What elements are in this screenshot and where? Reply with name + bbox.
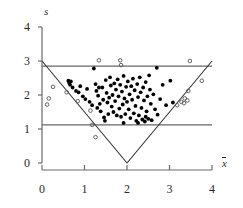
data-point-inlier <box>98 102 102 106</box>
data-point-inlier <box>158 97 162 101</box>
y-tick-label-2: 2 <box>14 89 30 101</box>
plot-canvas <box>0 0 243 208</box>
data-point-inlier <box>153 107 157 111</box>
y-axis-title: s <box>44 6 48 17</box>
data-point-inlier <box>106 112 110 116</box>
data-point-outlier <box>47 97 51 101</box>
data-point-inlier <box>77 90 81 94</box>
data-point-inlier <box>97 86 101 90</box>
reference-lines-layer <box>42 66 212 125</box>
data-point-inlier <box>141 86 145 90</box>
data-point-inlier <box>138 75 142 79</box>
data-point-inlier <box>95 89 99 93</box>
data-point-inlier <box>107 96 111 100</box>
data-point-inlier <box>130 98 134 102</box>
y-tick-label-0: 0 <box>14 157 30 169</box>
data-point-inlier <box>149 102 153 106</box>
data-point-outlier <box>97 59 101 63</box>
data-point-outlier <box>51 85 55 89</box>
data-point-inlier <box>116 77 120 81</box>
data-point-inlier <box>123 97 127 101</box>
data-point-outlier <box>200 79 204 83</box>
data-point-inlier <box>145 109 149 113</box>
data-point-inlier <box>85 87 89 91</box>
data-point-inlier <box>100 86 104 90</box>
data-point-inlier <box>105 91 109 95</box>
data-point-inlier <box>108 75 112 79</box>
y-tick-label-1: 1 <box>14 123 30 135</box>
data-point-outlier <box>118 59 122 63</box>
data-point-inlier <box>94 82 98 86</box>
data-point-inlier <box>129 84 133 88</box>
data-point-outlier <box>89 109 93 113</box>
data-point-inlier <box>106 101 110 105</box>
data-point-inlier <box>119 115 123 119</box>
data-point-inlier <box>90 103 94 107</box>
data-point-inlier <box>92 67 96 71</box>
y-tick-label-4: 4 <box>14 21 30 33</box>
data-point-inlier <box>71 86 75 90</box>
data-point-outlier <box>76 99 80 103</box>
data-point-outlier <box>186 99 190 103</box>
x-tick-label-3: 3 <box>160 183 180 195</box>
overbar-rule <box>222 157 226 158</box>
data-point-inlier <box>155 66 159 70</box>
x-axis-title-text: x <box>222 158 227 169</box>
data-point-inlier <box>99 109 103 113</box>
data-point-inlier <box>96 94 100 98</box>
constraint-triangle <box>42 61 212 163</box>
data-point-inlier <box>150 118 154 122</box>
y-tick-label-3: 3 <box>14 55 30 67</box>
data-point-inlier <box>142 99 146 103</box>
data-point-inlier <box>129 116 133 120</box>
x-tick-label-4: 4 <box>202 183 222 195</box>
data-point-inlier <box>78 84 82 88</box>
data-point-inlier <box>113 99 117 103</box>
data-point-inlier <box>112 82 116 86</box>
data-point-inlier <box>88 100 92 104</box>
data-point-inlier <box>109 84 113 88</box>
data-point-inlier <box>148 88 152 92</box>
data-point-inlier <box>112 110 116 114</box>
data-point-inlier <box>133 88 137 92</box>
data-point-inlier <box>121 103 125 107</box>
x-axis-title: x <box>222 158 227 169</box>
data-point-inlier <box>101 98 105 102</box>
data-point-inlier <box>136 95 140 99</box>
data-point-inlier <box>128 92 132 96</box>
data-point-inlier <box>117 107 121 111</box>
data-point-inlier <box>120 90 124 94</box>
data-point-inlier <box>143 120 147 124</box>
data-point-outlier <box>94 135 98 139</box>
x-tick-label-2: 2 <box>117 183 137 195</box>
data-point-inlier <box>83 97 87 101</box>
data-point-outlier <box>45 103 49 107</box>
data-point-inlier <box>110 105 114 109</box>
data-point-inlier <box>164 103 168 107</box>
data-point-inlier <box>137 114 141 118</box>
data-point-inlier <box>171 101 175 105</box>
data-point-inlier <box>118 83 122 87</box>
data-point-inlier <box>131 77 135 81</box>
data-point-inlier <box>147 73 151 77</box>
constraint-triangle-layer <box>42 61 212 163</box>
data-point-inlier <box>114 88 118 92</box>
data-point-inlier <box>132 111 136 115</box>
data-point-inlier <box>144 80 148 84</box>
data-point-inlier <box>140 106 144 110</box>
data-point-inlier <box>134 104 138 108</box>
data-point-inlier <box>125 100 129 104</box>
data-point-inlier <box>104 78 108 82</box>
data-point-inlier <box>103 119 107 123</box>
data-point-outlier <box>188 59 192 63</box>
data-point-outlier <box>175 103 179 107</box>
x-tick-label-1: 1 <box>75 183 95 195</box>
data-point-inlier <box>122 121 126 125</box>
data-point-inlier <box>135 82 139 86</box>
data-point-inlier <box>122 74 126 78</box>
data-point-inlier <box>123 112 127 116</box>
series-inlier <box>66 66 174 125</box>
data-point-inlier <box>124 85 128 89</box>
data-point-inlier <box>69 80 73 84</box>
data-point-inlier <box>95 106 99 110</box>
